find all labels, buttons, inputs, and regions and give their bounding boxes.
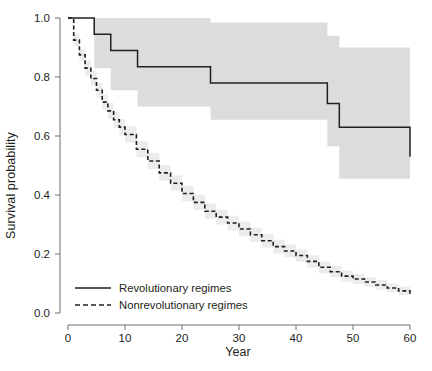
- x-tick-label: 60: [404, 332, 417, 344]
- x-tick-label: 20: [176, 332, 189, 344]
- y-tick-label: 0.6: [34, 130, 50, 142]
- y-tick-label: 0.0: [34, 307, 50, 319]
- x-tick-label: 10: [119, 332, 132, 344]
- y-tick-label: 0.4: [34, 189, 51, 201]
- confidence-bands: [68, 18, 410, 298]
- confidence-band-revolutionary: [68, 18, 410, 195]
- legend: Revolutionary regimesNonrevolutionary re…: [75, 282, 248, 311]
- y-axis-label: Survival probability: [0, 0, 22, 371]
- x-tick-label: 50: [347, 332, 360, 344]
- x-tick-label: 0: [65, 332, 71, 344]
- y-tick-label: 1.0: [34, 12, 50, 24]
- x-tick-label: 40: [290, 332, 303, 344]
- legend-label-revolutionary: Revolutionary regimes: [119, 282, 232, 294]
- y-tick-label: 0.8: [34, 71, 50, 83]
- legend-label-nonrevolutionary: Nonrevolutionary regimes: [119, 299, 248, 311]
- x-axis-label-text: Year: [225, 345, 250, 359]
- x-axis-label: Year: [0, 345, 432, 359]
- x-tick-label: 30: [233, 332, 246, 344]
- plot-canvas: 0.00.20.40.60.81.00102030405060 Revoluti…: [0, 0, 432, 371]
- survival-chart-figure: Survival probability Year 0.00.20.40.60.…: [0, 0, 432, 371]
- y-tick-label: 0.2: [34, 248, 50, 260]
